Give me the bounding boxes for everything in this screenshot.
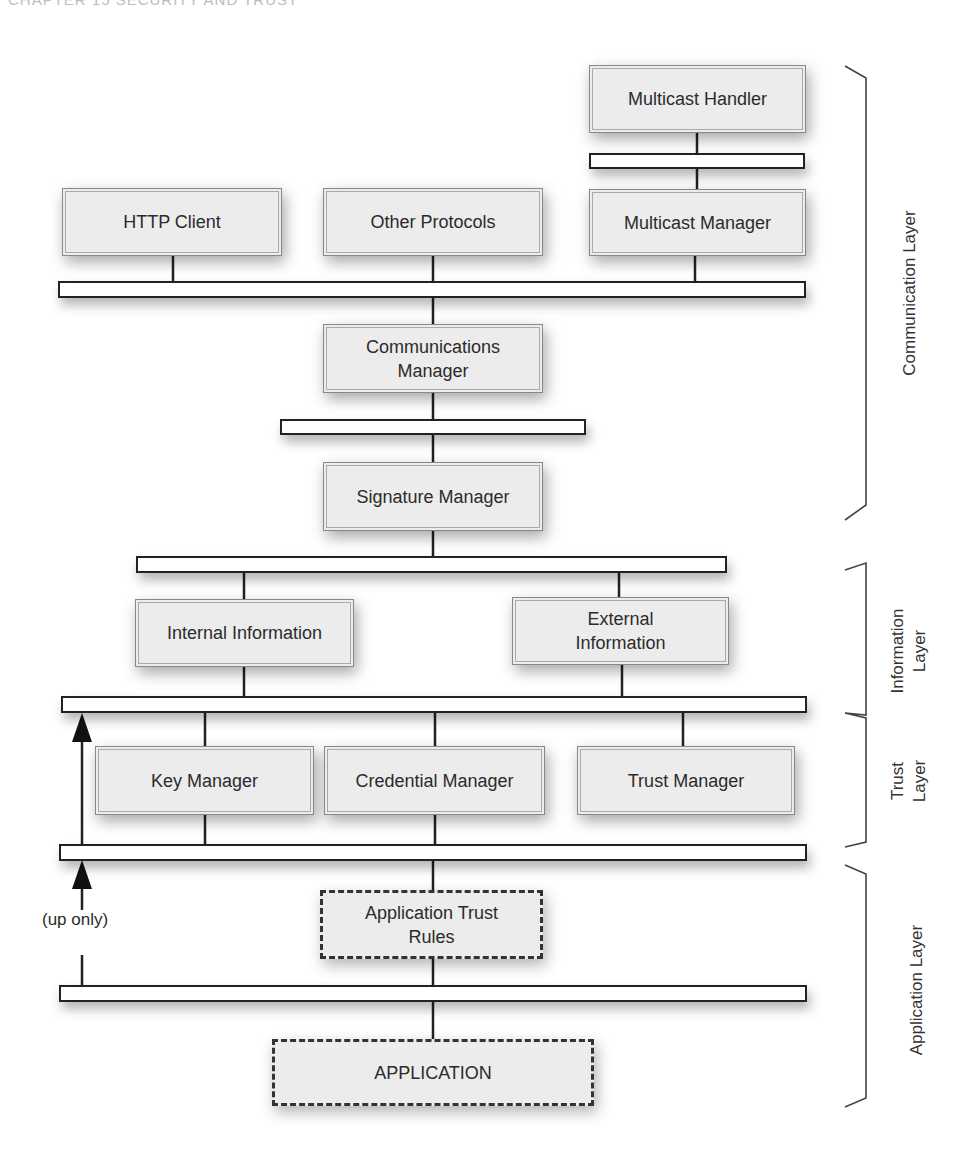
http-client-box: HTTP Client [62,188,282,256]
multicast-bus-bar [589,153,805,169]
information-bus-bar [61,696,807,713]
application-layer-label: Application Layer [906,900,928,1080]
application-trust-rules-label-line1: Application Trust [365,901,498,925]
other-protocols-label: Other Protocols [370,210,495,234]
trust-manager-label: Trust Manager [628,769,744,793]
http-client-label: HTTP Client [123,210,221,234]
communications-manager-bus-bar [280,419,586,435]
multicast-handler-label: Multicast Handler [628,87,767,111]
application-trust-rules-box: Application Trust Rules [320,890,543,959]
application-trust-rules-label-line2: Rules [408,925,454,949]
communication-layer-label: Communication Layer [899,193,921,393]
up-only-label: (up only) [40,910,110,930]
multicast-manager-box: Multicast Manager [589,189,806,256]
credential-manager-label: Credential Manager [355,769,513,793]
other-protocols-box: Other Protocols [323,188,543,256]
trust-bus-bar [59,844,807,861]
communications-manager-box: Communications Manager [323,324,543,393]
application-label: APPLICATION [374,1061,492,1085]
external-information-label-line1: External [587,607,653,631]
information-layer-label-line1: Information [887,596,909,706]
brace-communication-layer [845,66,866,520]
application-bus-bar [59,985,807,1002]
trust-layer-label-line1: Trust [887,736,909,826]
information-layer-label-line2: Layer [909,596,931,706]
information-layer-label: Information Layer [887,596,933,706]
communications-manager-label-line1: Communications [366,335,500,359]
brace-information-trust-layers [845,563,866,847]
internal-information-box: Internal Information [135,599,354,667]
external-information-label-line2: Information [575,631,665,655]
communications-manager-label-line2: Manager [397,359,468,383]
application-box: APPLICATION [272,1039,594,1106]
brace-application-layer [845,865,866,1107]
signature-bus-bar [136,556,727,573]
trust-layer-label: Trust Layer [887,736,933,826]
key-manager-label: Key Manager [151,769,258,793]
arrowhead-up-icon [72,860,92,889]
signature-manager-label: Signature Manager [356,485,509,509]
internal-information-label: Internal Information [167,621,322,645]
signature-manager-box: Signature Manager [323,462,543,531]
external-information-box: External Information [512,597,729,665]
multicast-handler-box: Multicast Handler [589,65,806,133]
arrowhead-up-icon [72,713,92,742]
multicast-manager-label: Multicast Manager [624,211,771,235]
communication-bus-bar [58,281,806,298]
trust-manager-box: Trust Manager [577,746,795,815]
trust-layer-label-line2: Layer [909,736,931,826]
credential-manager-box: Credential Manager [324,746,545,815]
key-manager-box: Key Manager [95,746,314,815]
